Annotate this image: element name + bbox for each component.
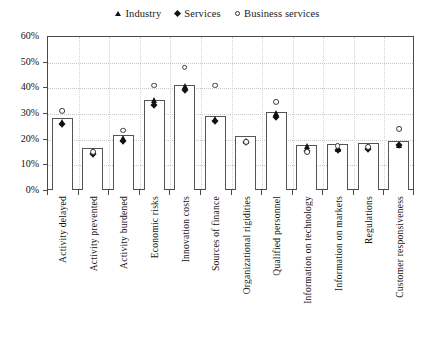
x-axis-ticks (47, 190, 414, 195)
bar (266, 112, 287, 190)
circle-marker-icon (90, 149, 96, 155)
chart-legend: Industry Services Business services (0, 8, 435, 19)
x-axis-tick-mark (413, 190, 414, 195)
x-axis-tick-label: Information on markets (333, 196, 344, 291)
x-axis-labels: Activity delayedActivity preventedActivi… (47, 196, 414, 336)
x-axis-tick-label: Regulations (363, 196, 374, 244)
x-axis-tick-mark (78, 190, 79, 195)
x-axis-tick-mark (292, 190, 293, 195)
x-axis-tick-mark (108, 190, 109, 195)
y-axis-tick-label: 0% (26, 185, 39, 195)
legend-item-business-services: Business services (235, 8, 320, 19)
circle-marker-icon (151, 83, 157, 89)
x-axis-tick-label: Activity burdened (118, 196, 129, 269)
circle-marker-icon (243, 139, 249, 145)
legend-item-industry: Industry (115, 8, 161, 19)
bar (205, 116, 226, 190)
x-axis-tick-label: Organizational rigidities (241, 196, 252, 294)
chart-root: Industry Services Business services 0%10… (0, 0, 435, 337)
legend-label-industry: Industry (125, 8, 161, 19)
y-axis-tick-label: 60% (21, 31, 39, 41)
x-axis-tick-label: Activity delayed (57, 196, 68, 263)
bars-and-markers-layer (47, 36, 414, 190)
x-axis-tick-mark (383, 190, 384, 195)
x-axis-tick-label: Activity prevented (88, 196, 99, 271)
circle-marker-icon (212, 83, 218, 89)
y-axis-tick-label: 10% (21, 159, 39, 169)
diamond-marker-icon (174, 10, 181, 17)
x-axis-tick-label: Qualified personnel (271, 196, 282, 276)
circle-marker-icon (396, 126, 402, 132)
y-axis-tick-label: 40% (21, 82, 39, 92)
x-axis-tick-mark (139, 190, 140, 195)
legend-label-services: Services (184, 8, 220, 19)
bar (144, 100, 165, 190)
circle-marker-icon (59, 108, 65, 114)
bar (174, 85, 195, 190)
x-axis-tick-mark (322, 190, 323, 195)
circle-marker-icon (121, 127, 127, 133)
x-axis-tick-mark (169, 190, 170, 195)
x-axis-tick-mark (261, 190, 262, 195)
x-axis-tick-mark (231, 190, 232, 195)
y-axis-tick-label: 30% (21, 108, 39, 118)
x-axis-tick-label: Sources of finance (210, 196, 221, 271)
y-axis-tick-label: 20% (21, 134, 39, 144)
x-axis-tick-mark (353, 190, 354, 195)
circle-marker-icon (182, 65, 188, 71)
circle-marker-icon (273, 99, 279, 105)
triangle-marker-icon (115, 11, 121, 16)
x-axis-tick-label: Customer responsiveness (394, 196, 405, 298)
circle-marker-icon (235, 11, 240, 16)
x-axis-tick-mark (200, 190, 201, 195)
legend-label-business-services: Business services (244, 8, 319, 19)
y-axis-labels: 0%10%20%30%40%50%60% (0, 0, 44, 337)
x-axis-tick-label: Economic risks (149, 196, 160, 258)
circle-marker-icon (365, 144, 371, 150)
y-axis-tick-label: 50% (21, 57, 39, 67)
x-axis-tick-label: Information on technology (302, 196, 313, 304)
x-axis-tick-label: Innovation costs (180, 196, 191, 262)
legend-item-services: Services (175, 8, 220, 19)
circle-marker-icon (304, 149, 310, 155)
circle-marker-icon (335, 143, 341, 149)
bar (52, 118, 73, 190)
x-axis-tick-mark (47, 190, 48, 195)
